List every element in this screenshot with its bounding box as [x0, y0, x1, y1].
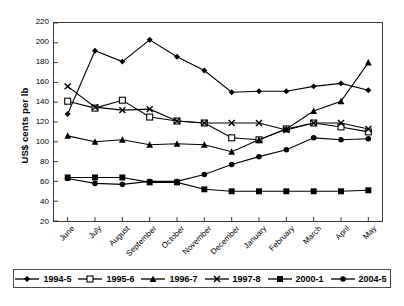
legend-marker-cross-icon [204, 273, 230, 285]
data-point [365, 87, 371, 93]
data-point [65, 98, 71, 104]
legend-marker-open-square-icon [77, 273, 103, 285]
data-point [65, 83, 71, 89]
x-tick-label: August [107, 224, 131, 248]
y-tick-label: 100 [25, 138, 49, 146]
data-point [284, 147, 290, 153]
data-series-1995-6 [65, 97, 372, 143]
data-point [147, 114, 153, 120]
data-point [283, 88, 289, 94]
legend-item-1995-6[interactable]: 1995-6 [77, 273, 137, 285]
y-tick-label: 40 [25, 198, 49, 206]
data-point [365, 59, 372, 66]
data-point [311, 188, 317, 194]
data-point [256, 188, 262, 194]
legend-marker-filled-square-icon [267, 273, 293, 285]
data-series-1997-8 [65, 83, 372, 133]
x-tick-label: October [160, 224, 186, 250]
legend-label: 1997-8 [231, 274, 264, 284]
chart-root: US$ cents per lb 22020018016014012010080… [0, 0, 404, 306]
x-tick-label: December [209, 224, 241, 256]
y-tick-label: 60 [25, 178, 49, 186]
data-point [202, 172, 208, 178]
x-tick-label: May [362, 224, 379, 241]
legend-label: 1995-6 [104, 274, 137, 284]
x-tick-label: November [181, 224, 213, 256]
y-tick-label: 200 [25, 38, 49, 46]
legend-marker-diamond-icon [14, 273, 40, 285]
x-tick-label: February [267, 224, 296, 253]
chart-legend: 1994-51995-61996-71997-82000-12004-5 [13, 269, 391, 288]
data-series-1996-7 [64, 59, 371, 155]
y-tick-label: 180 [25, 58, 49, 66]
y-tick-label: 160 [25, 78, 49, 86]
data-point [229, 162, 235, 168]
data-point [64, 132, 71, 139]
data-point [119, 97, 125, 103]
x-tick-label: June [57, 224, 76, 243]
y-tick-label: 120 [25, 118, 49, 126]
data-point [256, 154, 262, 160]
data-point [338, 80, 344, 86]
legend-item-1994-5[interactable]: 1994-5 [14, 273, 74, 285]
data-point [365, 187, 371, 193]
legend-label: 2004-5 [357, 274, 390, 284]
data-point [338, 188, 344, 194]
x-axis-tick-labels: JuneJulyAugustSeptemberOctoberNovemberDe… [53, 224, 383, 268]
legend-label: 2000-1 [294, 274, 327, 284]
data-point [311, 135, 317, 141]
legend-marker-triangle-icon [140, 273, 166, 285]
data-point [174, 179, 180, 185]
data-point [338, 137, 344, 143]
data-point [256, 88, 262, 94]
data-point [92, 181, 98, 187]
y-tick-label: 220 [25, 18, 49, 26]
data-series-1994-5 [65, 37, 372, 117]
data-point [65, 176, 71, 182]
y-tick-label: 80 [25, 158, 49, 166]
legend-label: 1996-7 [167, 274, 200, 284]
legend-label: 1994-5 [41, 274, 74, 284]
x-tick-label: July [87, 224, 103, 240]
data-point [120, 182, 126, 188]
data-point [92, 174, 98, 180]
data-point [174, 54, 180, 60]
data-point [229, 188, 235, 194]
x-tick-label: January [242, 224, 268, 250]
data-point [92, 48, 98, 54]
data-point [119, 174, 125, 180]
y-tick-label: 140 [25, 98, 49, 106]
legend-item-1996-7[interactable]: 1996-7 [140, 273, 200, 285]
data-point [311, 83, 317, 89]
data-point [283, 188, 289, 194]
plot-area [53, 22, 383, 222]
data-point [366, 136, 372, 142]
legend-item-2004-5[interactable]: 2004-5 [330, 273, 390, 285]
y-tick-label: 20 [25, 218, 49, 226]
legend-item-1997-8[interactable]: 1997-8 [204, 273, 264, 285]
data-point [201, 186, 207, 192]
legend-item-2000-1[interactable]: 2000-1 [267, 273, 327, 285]
x-tick-label: March [302, 224, 324, 246]
x-tick-label: April [333, 224, 351, 242]
data-point [147, 179, 153, 185]
series-canvas [54, 23, 382, 221]
data-point [229, 135, 235, 141]
y-axis-tick-labels: 22020018016014012010080604020 [22, 22, 49, 222]
data-series-2004-5 [65, 135, 371, 187]
legend-marker-circle-icon [330, 273, 356, 285]
data-point [65, 111, 71, 117]
